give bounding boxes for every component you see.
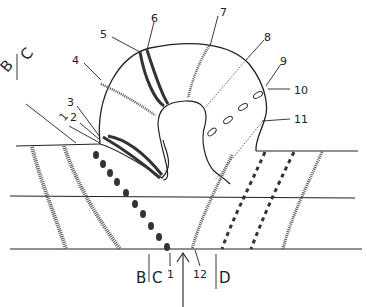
dark-bead-chain (93, 151, 170, 251)
label-8: 8 (264, 31, 271, 44)
label-3: 3 (67, 96, 74, 109)
label-4: 4 (72, 54, 79, 67)
inner-cavity-outline (158, 101, 230, 184)
outer-bulb-outline (99, 44, 266, 151)
label-B-bottom: B (136, 269, 146, 287)
top-layer-line (16, 144, 100, 146)
label-1-bottom: 1 (167, 268, 174, 281)
thin-dashed-lines (205, 60, 262, 180)
label-D-bottom: D (219, 269, 231, 287)
label-2: 2 (70, 111, 77, 124)
up-arrow-icon (177, 253, 189, 307)
label-9: 9 (280, 55, 287, 68)
label-5: 5 (100, 28, 107, 41)
dark-oval-bands (103, 50, 168, 178)
upper-stippled-bands (101, 46, 209, 115)
label-1-top: 1 (56, 110, 70, 124)
label-C-bottom: C (152, 269, 162, 287)
right-bead-chains (222, 152, 294, 249)
label-11: 11 (294, 113, 308, 126)
open-bead-chain (207, 90, 264, 137)
leader-lines (17, 16, 290, 289)
label-6: 6 (151, 12, 158, 25)
cross-section-diagram: B C 1 2 3 4 5 6 7 8 9 10 11 1 12 B C D (0, 0, 367, 307)
label-12: 12 (193, 268, 207, 281)
label-7: 7 (220, 6, 227, 19)
label-C-top: C (16, 44, 37, 64)
left-stippled-bands (32, 146, 120, 249)
label-B-top: B (0, 56, 17, 75)
layer-lines (10, 144, 362, 249)
label-10: 10 (294, 84, 308, 97)
